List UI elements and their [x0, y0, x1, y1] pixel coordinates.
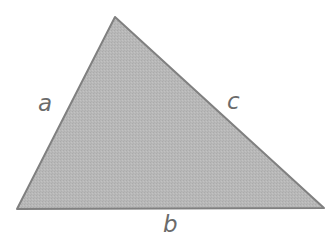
side-label-a: a — [38, 92, 52, 115]
side-label-c: c — [227, 90, 240, 113]
figure-canvas: a b c — [0, 0, 332, 251]
triangle-shape — [17, 17, 324, 209]
side-label-b: b — [163, 213, 178, 236]
